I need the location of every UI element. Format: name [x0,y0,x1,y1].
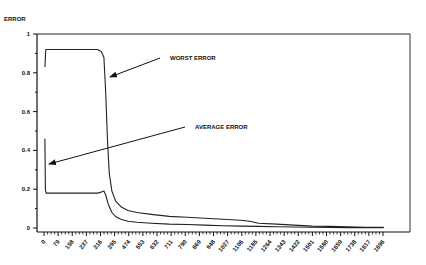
y-tick-label: 1 [27,31,31,37]
series-lines [45,50,384,228]
plot-frame [37,34,410,232]
x-tick-label: 1185 [246,238,259,252]
x-tick-label: 158 [64,238,75,250]
annotations: WORST ERRORAVERAGE ERROR [49,55,248,164]
x-tick-label: 1738 [344,238,358,253]
x-tick-label: 474 [120,238,131,250]
average-error-arrow-icon [49,127,185,164]
x-tick-label: 711 [163,238,174,250]
y-axis: 00.20.40.60.81 [22,31,37,231]
average-error-label: AVERAGE ERROR [195,124,248,130]
x-tick-label: 316 [92,238,103,250]
x-tick-label: 1343 [274,238,288,253]
x-tick-label: 1422 [288,238,302,253]
x-tick-label: 948 [205,238,216,250]
x-tick-label: 237 [78,238,89,250]
x-tick-label: 632 [149,238,160,250]
x-tick-label: 869 [191,238,202,250]
x-tick-label: 1817 [358,238,372,253]
y-tick-label: 0.4 [22,147,31,153]
x-tick-label: 1580 [316,238,330,253]
worst-error-arrow-icon [110,58,160,77]
x-tick-label: 79 [52,238,61,247]
x-tick-label: 1896 [373,238,387,253]
y-tick-label: 0.2 [22,186,31,192]
x-tick-label: 1027 [217,238,231,253]
x-tick-label: 1264 [260,238,274,253]
worst-error-label: WORST ERROR [170,55,216,61]
x-tick-label: 790 [177,238,188,250]
x-tick-label: 395 [106,238,117,250]
x-tick-label: 553 [135,238,146,250]
x-tick-label: 1659 [330,238,344,253]
x-tick-label: 0 [40,238,47,245]
x-tick-label: 1501 [302,238,316,253]
average-error-line [45,139,384,228]
y-tick-label: 0 [27,225,31,231]
error-line-chart: 00.20.40.60.81 0791582373163954745536327… [0,0,426,265]
y-tick-label: 0.6 [22,109,31,115]
y-tick-label: 0.8 [22,70,31,76]
x-tick-label: 1106 [232,238,245,252]
worst-error-line [45,50,384,228]
y-axis-title: ERROR [4,16,26,22]
x-axis: 0791582373163954745536327117908699481027… [40,232,386,253]
